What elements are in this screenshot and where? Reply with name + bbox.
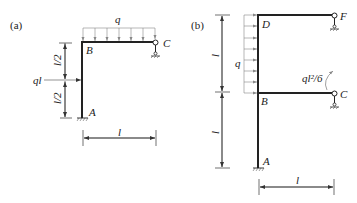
dim-label-lower-b: l [209,131,221,134]
figure-b: (b) q F D [191,10,348,195]
load-label-q-a: q [115,13,121,25]
figure-b-tag: (b) [191,19,204,32]
diagram-canvas: (a) q C B A [0,0,357,203]
distributed-load-b [244,15,257,93]
node-label-C-a: C [163,37,171,49]
node-label-B-a: B [86,44,93,56]
dim-label-upper-a: l/2 [51,54,63,66]
point-load-label: ql [33,74,42,86]
fixed-support-A-a [77,118,88,121]
node-label-F: F [339,10,347,22]
figure-a: (a) q C B A [10,13,171,146]
node-label-A-b: A [262,155,270,167]
dim-label-horizontal-b: l [296,174,299,186]
node-label-B-b: B [261,95,268,107]
dim-label-lower-a: l/2 [51,92,63,104]
node-label-D: D [261,18,270,30]
figure-a-tag: (a) [10,19,23,32]
fixed-support-A-b [253,168,264,171]
vertical-dimension-b [215,15,230,168]
distributed-load-a [83,28,155,41]
load-label-q-b: q [235,57,241,69]
dim-label-upper-b: l [209,54,221,57]
dim-label-horizontal-a: l [118,126,121,138]
moment-arrow-C [325,71,333,90]
node-label-C-b: C [340,88,348,100]
vertical-dimension-a [59,43,72,118]
node-label-A-a: A [88,106,96,118]
moment-label: ql²/6 [302,72,323,84]
